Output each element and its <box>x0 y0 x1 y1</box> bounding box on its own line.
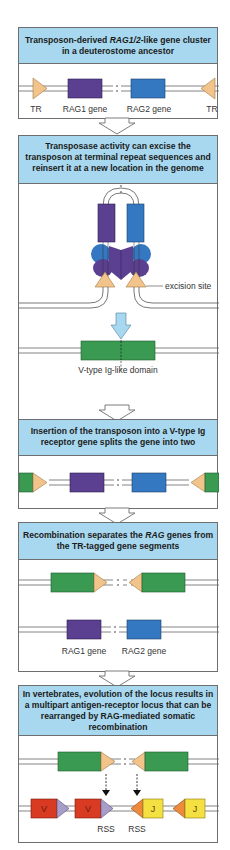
ancestral-gene-cluster-diagram: TR RAG1 gene RAG2 gene TR <box>19 64 219 120</box>
tr-left-icon <box>33 78 47 99</box>
rag1-label: RAG1 gene <box>62 646 107 656</box>
tr-right-icon <box>201 78 215 99</box>
v-gene-right-half <box>205 473 219 492</box>
excision-diagram: excision site V-type Ig-like domain <box>19 184 219 436</box>
rss-j2-icon <box>173 799 185 818</box>
rss-label-2: RSS <box>128 824 146 834</box>
tr-left-label: TR <box>30 104 41 114</box>
v-segment-1-label: V <box>41 804 47 814</box>
j-segment-1-label: J <box>151 804 156 814</box>
tr-left-icon <box>33 473 47 492</box>
rag1-label: RAG1 gene <box>63 104 108 114</box>
flow-arrow-1 <box>98 117 138 135</box>
tr-right-icon <box>191 473 205 492</box>
rag2-gene-block <box>132 473 166 492</box>
v-gene-left-half <box>19 473 33 492</box>
v-segment-2-label: V <box>85 804 91 814</box>
panel-transposase-excision: Transposase activity can excise the tran… <box>18 135 218 435</box>
v-gene-right-segment <box>145 752 188 771</box>
recombination-diagram: RAG1 gene RAG2 gene <box>19 560 219 673</box>
rag-protein-complex-icon <box>91 244 151 280</box>
v-type-domain-label: V-type Ig-like domain <box>78 365 158 375</box>
panel-2-header: Transposase activity can excise the tran… <box>19 136 217 184</box>
j-segment-2-label: J <box>193 804 198 814</box>
rag2-gene-block <box>131 79 165 98</box>
panel-5-header: In vertebrates, evolution of the locus r… <box>19 686 217 736</box>
rag1-gene-block <box>70 473 104 492</box>
panel-recombination: Recombination separates the RAG genes fr… <box>18 522 218 672</box>
insertion-arrow-icon <box>111 313 131 339</box>
tr-left-icon <box>94 573 107 592</box>
rag1-vertical-block <box>98 204 115 242</box>
down-arrow-right-icon <box>133 790 141 796</box>
panel-3-header: Insertion of the transposon into a V-typ… <box>19 420 217 456</box>
rag1-gene-block <box>68 79 102 98</box>
down-arrow-left-icon <box>102 790 110 796</box>
panel-vertebrate-locus: In vertebrates, evolution of the locus r… <box>18 685 218 843</box>
rss-v1-icon <box>57 799 69 818</box>
rss-label-1: RSS <box>97 824 115 834</box>
v-gene-right-segment <box>142 573 185 592</box>
tr-left-icon <box>101 752 115 771</box>
excision-site-label: excision site <box>165 281 212 291</box>
panel-4-header: Recombination separates the RAG genes fr… <box>19 523 217 560</box>
rag2-label: RAG2 gene <box>127 104 172 114</box>
split-gene-diagram <box>19 456 219 510</box>
rag2-gene-block <box>127 620 161 639</box>
v-gene-left-segment <box>58 752 101 771</box>
v-type-ig-domain-block <box>81 341 155 360</box>
rag2-label: RAG2 gene <box>122 646 167 656</box>
rss-j1-icon <box>131 799 143 818</box>
rag1-gene-block <box>67 620 101 639</box>
panel-ancestral-cluster: Transposon-derived RAG1/2-like gene clus… <box>18 27 218 119</box>
rag2-vertical-block <box>127 204 144 242</box>
tr-right-icon <box>129 573 142 592</box>
tr-right-label: TR <box>206 104 217 114</box>
v-gene-left-segment <box>51 573 94 592</box>
panel-insertion: Insertion of the transposon into a V-typ… <box>18 419 218 509</box>
rss-v2-icon <box>101 799 113 818</box>
panel-1-header: Transposon-derived RAG1/2-like gene clus… <box>19 28 217 64</box>
antigen-receptor-locus-diagram: V V J J RSS RSS <box>19 736 219 844</box>
tr-right-icon <box>132 752 145 771</box>
